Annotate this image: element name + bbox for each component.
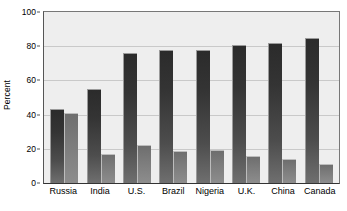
y-axis-tick-mark [37, 46, 40, 47]
bar [305, 38, 319, 183]
plot-area [43, 11, 340, 184]
bar-chart: Percent 020406080100 RussiaIndiaU.S.Braz… [0, 0, 347, 211]
bar [232, 45, 246, 184]
y-axis-tick-label: 80 [27, 41, 36, 51]
x-axis-tick-label: China [265, 186, 302, 196]
bar [123, 53, 137, 183]
y-axis-tick-label: 100 [22, 7, 36, 17]
bar [210, 150, 224, 183]
bar [87, 89, 101, 183]
bar [64, 113, 78, 183]
bar [268, 43, 282, 183]
x-axis-tick-label: Canada [301, 186, 338, 196]
y-axis-tick-label: 40 [27, 110, 36, 120]
x-axis-tick-label: Russia [45, 186, 82, 196]
x-axis-tick-label: Brazil [155, 186, 192, 196]
y-axis-title: Percent [0, 0, 14, 190]
bar-group [264, 12, 300, 183]
bars-layer [44, 12, 339, 183]
bar [159, 50, 173, 183]
y-axis-title-text: Percent [2, 80, 12, 110]
bar [319, 164, 333, 183]
x-axis-tick-label: Nigeria [192, 186, 229, 196]
y-axis-tick-mark [37, 114, 40, 115]
bar-group [301, 12, 337, 183]
bar-group [82, 12, 118, 183]
bar-group [119, 12, 155, 183]
bar [101, 154, 115, 183]
x-axis-tick-labels: RussiaIndiaU.S.BrazilNigeriaU.K.ChinaCan… [43, 186, 340, 208]
y-axis-tick-label: 20 [27, 144, 36, 154]
y-axis-tick-mark [37, 183, 40, 184]
x-axis-tick-label: India [82, 186, 119, 196]
bar [50, 109, 64, 183]
bar [282, 159, 296, 183]
y-axis-tick-label: 60 [27, 75, 36, 85]
bar [173, 151, 187, 183]
y-axis-tick-mark [37, 12, 40, 13]
y-axis-tick-mark [37, 80, 40, 81]
bar-group [228, 12, 264, 183]
y-axis-tick-label: 0 [31, 178, 36, 188]
y-axis-tick-labels: 020406080100 [14, 8, 40, 184]
bar-group [46, 12, 82, 183]
x-axis-tick-label: U.S. [118, 186, 155, 196]
y-axis-tick-mark [37, 148, 40, 149]
bar-group [155, 12, 191, 183]
bar [246, 156, 260, 183]
bar [137, 145, 151, 183]
x-axis-tick-label: U.K. [228, 186, 265, 196]
bar-group [192, 12, 228, 183]
bar [196, 50, 210, 183]
